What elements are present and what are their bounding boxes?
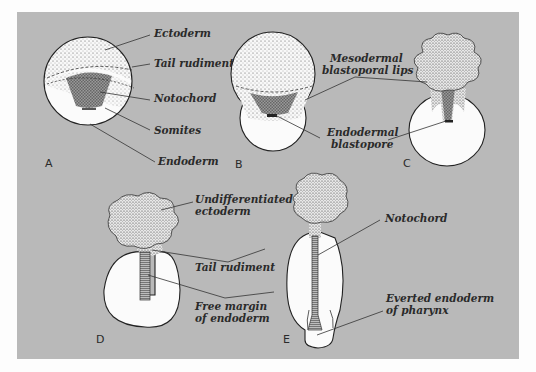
figure-e: Notochord Everted endoderm of pharynx E xyxy=(283,173,494,348)
label-free-margin-2: of endoderm xyxy=(195,312,270,324)
embryo-diagram: Ectoderm Tail rudiment Notochord Somites… xyxy=(0,0,536,372)
label-tail-rudiment: Tail rudiment xyxy=(154,57,234,69)
figure-label-d: D xyxy=(96,333,104,346)
label-undifferentiated-1: Undifferentiated xyxy=(195,193,294,205)
label-everted-1: Everted endoderm xyxy=(385,292,494,304)
label-notochord: Notochord xyxy=(153,92,217,104)
figure-c: C xyxy=(403,33,485,170)
figure-d: Undifferentiated ectoderm Tail rudiment … xyxy=(96,192,294,346)
label-ectoderm: Ectoderm xyxy=(153,27,211,39)
label-tail-rudiment-d: Tail rudiment xyxy=(195,261,275,273)
figure-label-e: E xyxy=(283,333,290,346)
label-mesodermal-1: Mesodermal xyxy=(329,52,403,64)
figure-label-b: B xyxy=(235,158,243,171)
figure-label-c: C xyxy=(403,157,411,170)
label-somites: Somites xyxy=(154,124,201,136)
label-undifferentiated-2: ectoderm xyxy=(195,205,251,217)
label-endoderm: Endoderm xyxy=(157,155,219,167)
figure-b: B xyxy=(231,32,315,171)
label-everted-2: of pharynx xyxy=(386,304,449,316)
label-mesodermal-2: blastoporal lips xyxy=(322,64,414,76)
figure-label-a: A xyxy=(45,157,53,170)
label-notochord-e: Notochord xyxy=(384,212,448,224)
label-endodermal-1: Endodermal xyxy=(326,126,398,138)
figure-a: Ectoderm Tail rudiment Notochord Somites… xyxy=(44,27,234,170)
label-free-margin-1: Free margin xyxy=(194,300,267,312)
label-endodermal-2: blastopore xyxy=(331,138,394,150)
